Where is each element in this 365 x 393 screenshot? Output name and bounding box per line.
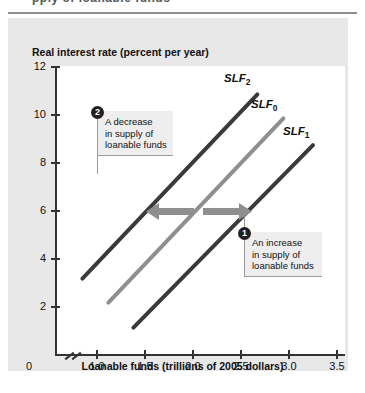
callout-increase-line-2: in supply of: [252, 249, 316, 261]
curve-label-slf2-text: SLF: [224, 72, 246, 84]
x-tick-1-5: [144, 350, 146, 359]
y-tick-8: [51, 162, 60, 164]
callout-increase[interactable]: An increase in supply of loanable funds: [244, 232, 322, 277]
callout-decrease-badge: 2: [91, 106, 104, 119]
chart-panel: Real interest rate (percent per year) 12…: [8, 18, 348, 371]
y-tick-label-2: 2: [24, 300, 46, 312]
callout-decrease[interactable]: A decrease in supply of loanable funds: [97, 111, 173, 156]
shift-arrows-svg: [146, 201, 252, 222]
x-axis-line: [55, 354, 345, 356]
callout-increase-line-1: An increase: [252, 237, 316, 249]
x-axis-title: Loanable funds (trillions of 2005 dollar…: [0, 360, 365, 372]
y-tick-label-6: 6: [24, 204, 46, 216]
y-tick-label-8: 8: [24, 156, 46, 168]
arrow-left-icon: [146, 203, 194, 220]
callout-2-leader: [97, 154, 98, 174]
cut-off-header-text: pply of loanable funds: [32, 0, 170, 5]
curve-label-slf1-text: SLF: [283, 125, 305, 137]
shift-arrows: [146, 201, 252, 222]
y-tick-label-12: 12: [24, 60, 46, 72]
curve-label-slf0-text: SLF: [251, 98, 273, 110]
callout-increase-line-3: loanable funds: [252, 260, 316, 272]
x-tick-2-0: [192, 350, 194, 359]
callout-increase-badge: 1: [238, 227, 251, 240]
x-tick-1-0: [96, 350, 98, 359]
callout-decrease-line-2: in supply of: [105, 128, 167, 140]
curve-label-slf0-sub: 0: [273, 103, 278, 113]
y-tick-label-4: 4: [24, 252, 46, 264]
curve-label-slf1: SLF1: [283, 125, 309, 140]
y-tick-2: [51, 306, 60, 308]
header-divider: [8, 12, 357, 14]
figure-root: pply of loanable funds Real interest rat…: [0, 0, 365, 393]
curve-label-slf1-sub: 1: [305, 130, 310, 140]
y-tick-10: [51, 114, 60, 116]
x-tick-2-5: [240, 350, 242, 359]
y-tick-label-10: 10: [24, 108, 46, 120]
curve-label-slf2: SLF2: [224, 72, 250, 87]
callout-decrease-line-3: loanable funds: [105, 139, 167, 151]
curve-label-slf2-sub: 2: [246, 77, 251, 87]
y-tick-12: [51, 66, 60, 68]
callout-decrease-line-1: A decrease: [105, 116, 167, 128]
curve-label-slf0: SLF0: [251, 98, 277, 113]
y-tick-6: [51, 210, 60, 212]
y-tick-4: [51, 258, 60, 260]
x-tick-3-0: [288, 350, 290, 359]
x-tick-3-5: [336, 350, 338, 359]
y-axis-title: Real interest rate (percent per year): [32, 46, 209, 58]
